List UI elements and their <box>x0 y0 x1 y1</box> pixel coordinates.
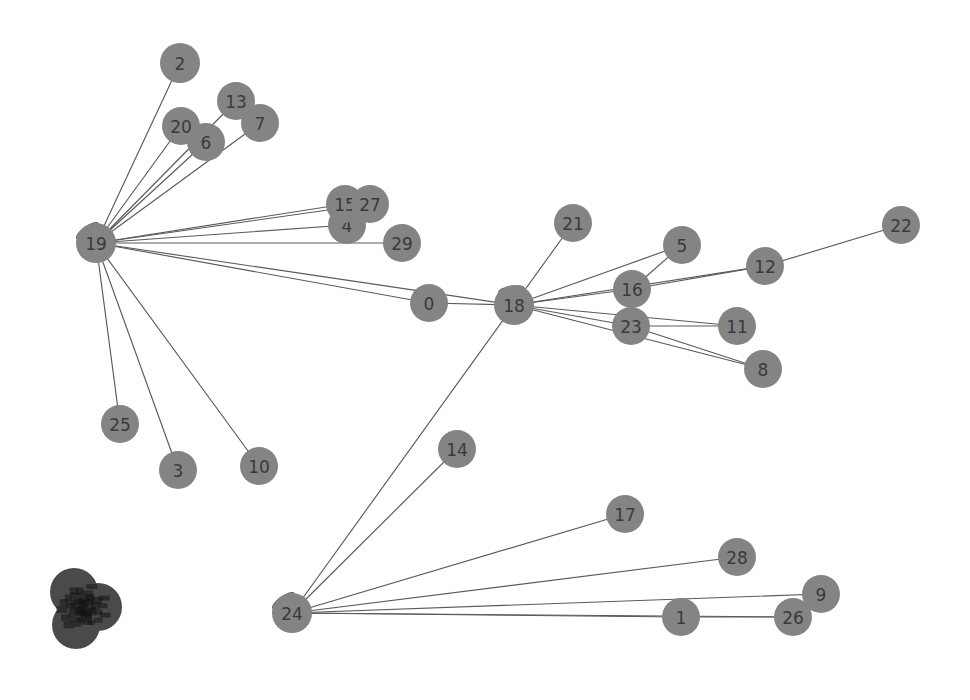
graph-node[interactable]: 26 <box>774 598 812 636</box>
node-circle[interactable] <box>162 107 200 145</box>
cluster-label-fragment <box>87 599 94 606</box>
node-circle[interactable] <box>494 285 534 325</box>
graph-node[interactable]: 24 <box>272 593 312 633</box>
graph-node[interactable]: 17 <box>606 495 644 533</box>
cluster-label-fragment <box>95 610 102 615</box>
node-circle[interactable] <box>744 350 782 388</box>
graph-edge <box>96 243 429 303</box>
graph-node[interactable]: 12 <box>746 247 784 285</box>
graph-node[interactable]: 14 <box>438 430 476 468</box>
node-circle[interactable] <box>882 206 920 244</box>
node-circle[interactable] <box>613 270 651 308</box>
graph-node[interactable]: 3 <box>159 451 197 489</box>
self-loops-layer <box>77 223 525 610</box>
node-circle[interactable] <box>272 593 312 633</box>
cluster-label-fragment <box>56 606 67 613</box>
graph-node[interactable]: 1 <box>662 598 700 636</box>
graph-node[interactable]: 13 <box>217 82 255 120</box>
node-circle[interactable] <box>160 43 200 83</box>
graph-node[interactable]: 21 <box>554 204 592 242</box>
node-circle[interactable] <box>159 451 197 489</box>
graph-node[interactable]: 0 <box>410 284 448 322</box>
graph-node[interactable]: 28 <box>718 538 756 576</box>
graph-edge <box>632 266 765 289</box>
graph-node[interactable]: 18 <box>494 285 534 325</box>
graph-node[interactable]: 25 <box>101 405 139 443</box>
node-circle[interactable] <box>746 247 784 285</box>
cluster-label-fragment <box>71 592 82 599</box>
graph-edge <box>292 305 514 613</box>
graph-edge <box>96 243 514 305</box>
node-circle[interactable] <box>663 226 701 264</box>
node-circle[interactable] <box>240 447 278 485</box>
graph-edge <box>514 245 682 305</box>
node-circle[interactable] <box>718 538 756 576</box>
cluster-label-fragment <box>61 614 70 621</box>
cluster-label-fragment <box>80 608 87 615</box>
graph-node[interactable]: 20 <box>162 107 200 145</box>
graph-edge <box>96 126 181 243</box>
node-circle[interactable] <box>351 185 389 223</box>
node-circle[interactable] <box>410 284 448 322</box>
graph-node[interactable]: 22 <box>882 206 920 244</box>
cluster-label-fragment <box>76 617 85 622</box>
cluster-label-fragment <box>64 621 75 628</box>
node-circle[interactable] <box>217 82 255 120</box>
graph-node[interactable]: 10 <box>240 447 278 485</box>
node-circle[interactable] <box>76 223 116 263</box>
cluster-label-fragment <box>74 622 81 627</box>
graph-edge <box>96 225 347 243</box>
node-circle[interactable] <box>718 307 756 345</box>
node-circle[interactable] <box>606 495 644 533</box>
graph-node[interactable]: 29 <box>383 224 421 262</box>
cluster-label-fragment <box>98 603 107 608</box>
node-circle[interactable] <box>662 598 700 636</box>
node-circle[interactable] <box>438 430 476 468</box>
node-circle[interactable] <box>774 598 812 636</box>
cluster-label-fragment <box>94 618 103 623</box>
graph-node[interactable]: 8 <box>744 350 782 388</box>
node-circle[interactable] <box>383 224 421 262</box>
graph-node[interactable]: 2 <box>160 43 200 83</box>
node-circle[interactable] <box>612 307 650 345</box>
graph-edge <box>292 613 793 617</box>
cluster-label-fragment <box>86 584 97 589</box>
graph-node[interactable]: 16 <box>613 270 651 308</box>
graph-node[interactable]: 27 <box>351 185 389 223</box>
network-graph-canvas: 0123456789101112131415161718192021222324… <box>0 0 970 700</box>
graph-svg: 0123456789101112131415161718192021222324… <box>0 0 970 700</box>
graph-edge <box>96 63 180 243</box>
graph-node[interactable]: 5 <box>663 226 701 264</box>
node-circle[interactable] <box>101 405 139 443</box>
cluster-label-fragment <box>99 596 110 601</box>
graph-node[interactable]: 19 <box>76 223 116 263</box>
graph-node[interactable]: 23 <box>612 307 650 345</box>
graph-edge <box>765 225 901 266</box>
node-circle[interactable] <box>554 204 592 242</box>
graph-node[interactable]: 11 <box>718 307 756 345</box>
